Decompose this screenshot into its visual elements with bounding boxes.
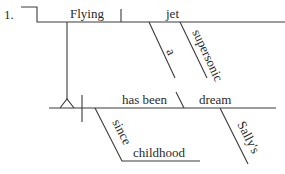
sentence-diagram: 1. Flying jet a supersonic has been drea… xyxy=(0,0,285,174)
pedestal xyxy=(60,99,74,108)
word-jet: jet xyxy=(165,6,179,21)
word-sallys: Sally's xyxy=(234,119,263,156)
word-flying: Flying xyxy=(70,6,104,21)
gerund-baseline xyxy=(21,7,285,22)
word-supersonic: supersonic xyxy=(189,27,226,84)
word-a: a xyxy=(163,46,179,58)
word-childhood: childhood xyxy=(133,145,185,160)
predicate-slash xyxy=(176,92,184,108)
word-has-been: has been xyxy=(122,92,168,107)
word-dream: dream xyxy=(199,92,231,107)
item-number: 1. xyxy=(4,7,14,22)
